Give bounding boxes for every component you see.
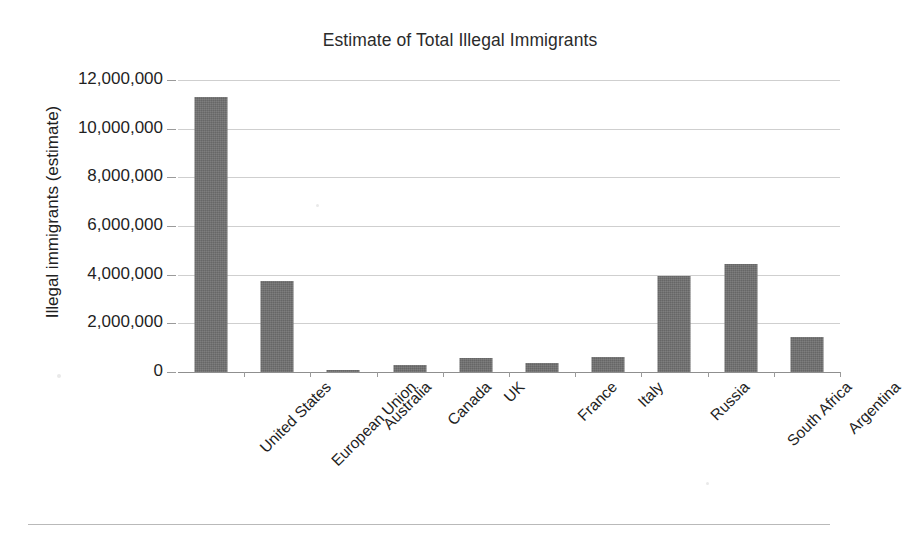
bars-group [178, 80, 840, 372]
y-axis-tick-label: 12,000,000 [3, 69, 163, 89]
y-axis-tick-label: 8,000,000 [3, 166, 163, 186]
y-axis-tick-mark [167, 323, 176, 324]
y-axis-tick-mark [167, 226, 176, 227]
bar [261, 281, 294, 372]
x-axis-category-labels: United StatesEuropean UnionAustraliaCana… [178, 378, 840, 498]
bar-slot [641, 80, 707, 372]
y-axis-tick-label: 0 [3, 361, 163, 381]
bar-slot [244, 80, 310, 372]
bar-slot [774, 80, 840, 372]
y-axis-tick-mark [167, 80, 176, 81]
bar-slot [310, 80, 376, 372]
bar [658, 276, 691, 372]
x-axis-category-label: UK [500, 378, 528, 406]
y-axis-tick-mark [167, 129, 176, 130]
bar-slot [443, 80, 509, 372]
bar-slot [509, 80, 575, 372]
bar-slot [178, 80, 244, 372]
x-axis-category-label: Canada [444, 378, 495, 429]
bar [790, 337, 823, 372]
y-axis-tick-label: 10,000,000 [3, 118, 163, 138]
bar-slot [377, 80, 443, 372]
x-axis-category-label: European Union [328, 378, 420, 470]
x-axis-tick-mark [509, 372, 510, 377]
x-axis-tick-mark [840, 372, 841, 377]
plot-area [178, 80, 840, 372]
x-axis-category-label: South Africa [783, 378, 855, 450]
page-divider-rule [28, 524, 830, 525]
x-axis-tick-mark [310, 372, 311, 377]
x-axis-category-label: Argentina [844, 378, 904, 438]
x-axis-tick-mark [774, 372, 775, 377]
bar [327, 370, 360, 372]
y-axis-tick-label: 2,000,000 [3, 312, 163, 332]
bar [195, 97, 228, 372]
x-axis-tick-mark [708, 372, 709, 377]
bar [526, 363, 559, 372]
x-axis-category-label: United States [256, 378, 335, 457]
y-axis-tick-mark [167, 177, 176, 178]
x-axis-tick-mark [641, 372, 642, 377]
bar [459, 358, 492, 372]
x-axis-tick-mark [575, 372, 576, 377]
x-axis-category-label: France [574, 378, 621, 425]
y-axis-tick-mark [167, 372, 176, 373]
scan-artifact [57, 374, 61, 378]
scan-artifact [316, 204, 319, 207]
x-axis-tick-mark [377, 372, 378, 377]
bar-slot [575, 80, 641, 372]
x-axis-tick-mark [443, 372, 444, 377]
bar [592, 357, 625, 372]
bar [724, 264, 757, 372]
bar-slot [708, 80, 774, 372]
chart-title: Estimate of Total Illegal Immigrants [150, 30, 770, 51]
y-axis-tick-label: 6,000,000 [3, 215, 163, 235]
x-axis-category-label: Italy [635, 378, 668, 411]
x-axis-category-label: Russia [706, 378, 752, 424]
y-axis-tick-label: 4,000,000 [3, 264, 163, 284]
x-axis-tick-mark [244, 372, 245, 377]
scan-artifact [706, 482, 709, 485]
y-axis-tick-mark [167, 275, 176, 276]
bar [393, 365, 426, 372]
